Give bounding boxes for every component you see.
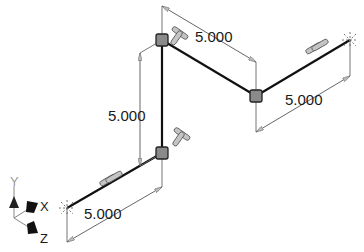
coordinate-triad: Y X Z	[9, 174, 49, 246]
dim-value-vertical[interactable]: 5.000	[108, 107, 146, 124]
vertex-a[interactable]	[156, 147, 168, 159]
segment-3[interactable]	[162, 40, 256, 96]
dim-value-right[interactable]: 5.000	[285, 91, 323, 108]
z-axis-arrow-icon	[27, 221, 38, 234]
vertex-c[interactable]	[250, 90, 262, 102]
parallel-constraint-icon-2[interactable]	[305, 38, 329, 54]
sketch-canvas[interactable]: 5.000 5.000 5.000 5.000	[0, 0, 364, 252]
vertex-markers[interactable]	[156, 34, 262, 159]
dim-value-top-diagonal[interactable]: 5.000	[195, 28, 233, 45]
y-axis-label: Y	[10, 174, 19, 189]
y-axis-arrow-icon	[9, 196, 19, 208]
x-axis-label: X	[40, 199, 49, 214]
vertex-b[interactable]	[156, 34, 168, 46]
perpendicular-constraint-icon-2[interactable]	[167, 127, 191, 151]
segment-4[interactable]	[256, 40, 350, 96]
z-axis-label: Z	[40, 231, 48, 246]
x-axis-arrow-icon	[26, 201, 38, 213]
endpoint-end-icon[interactable]	[342, 32, 358, 48]
endpoint-start-icon[interactable]	[59, 200, 75, 216]
dim-value-bottom-left[interactable]: 5.000	[84, 205, 122, 222]
